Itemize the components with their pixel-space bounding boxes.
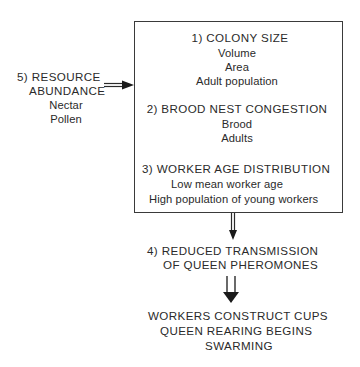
colony-size-item-area: Area bbox=[225, 60, 249, 74]
brood-nest-heading: 2) BROOD NEST CONGESTION bbox=[147, 102, 328, 116]
resource-heading-1: 5) RESOURCE bbox=[17, 70, 101, 84]
resource-item-pollen: Pollen bbox=[50, 112, 82, 126]
outcome-queen-rearing: QUEEN REARING BEGINS bbox=[160, 324, 312, 338]
resource-item-nectar: Nectar bbox=[49, 98, 83, 112]
worker-age-item-young-workers: High population of young workers bbox=[149, 192, 318, 206]
resource-heading-2: ABUNDANCE bbox=[29, 84, 105, 98]
colony-size-item-adult-population: Adult population bbox=[196, 74, 278, 88]
colony-size-item-volume: Volume bbox=[218, 46, 256, 60]
brood-nest-item-brood: Brood bbox=[222, 117, 252, 131]
box-to-pheromones-arrow-icon bbox=[229, 213, 237, 240]
worker-age-item-low-mean: Low mean worker age bbox=[171, 177, 283, 191]
colony-size-heading: 1) COLONY SIZE bbox=[192, 31, 289, 45]
pheromones-line-2: OF QUEEN PHEROMONES bbox=[163, 258, 318, 272]
outcome-swarming: SWARMING bbox=[205, 339, 273, 353]
pheromones-to-outcomes-arrow-icon bbox=[223, 276, 239, 303]
resource-arrow-icon bbox=[104, 81, 134, 90]
outcome-construct-cups: WORKERS CONSTRUCT CUPS bbox=[148, 309, 328, 323]
worker-age-heading: 3) WORKER AGE DISTRIBUTION bbox=[142, 162, 330, 176]
brood-nest-item-adults: Adults bbox=[221, 131, 253, 145]
pheromones-line-1: 4) REDUCED TRANSMISSION bbox=[147, 244, 318, 258]
